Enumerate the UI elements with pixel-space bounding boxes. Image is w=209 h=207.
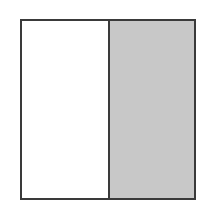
- fraction-square: [20, 19, 196, 200]
- unshaded-half: [22, 21, 110, 198]
- shaded-half: [110, 21, 194, 198]
